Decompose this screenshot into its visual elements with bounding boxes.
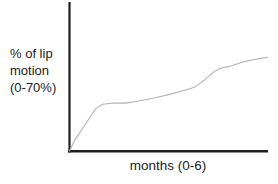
lip-motion-chart: % of lip motion (0-70%) months (0-6) — [0, 0, 278, 184]
x-axis-label: months (0-6) — [68, 158, 268, 173]
y-axis-label-line1: % of lip — [10, 45, 56, 62]
y-axis-label: % of lip motion (0-70%) — [10, 45, 56, 96]
y-axis-label-line2: motion — [10, 62, 56, 79]
y-axis-label-line3: (0-70%) — [10, 79, 56, 96]
lip-motion-curve — [70, 57, 268, 151]
